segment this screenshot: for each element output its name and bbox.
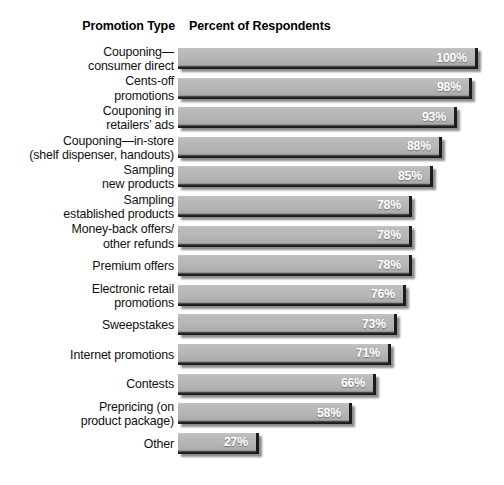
bar-track: 100% [178,48,504,69]
bar-value-label: 78% [377,228,412,244]
bar-value-label: 76% [371,287,406,303]
bar: 78% [178,226,412,247]
bar-track: 73% [178,314,504,335]
chart-row: Money-back offers/ other refunds78% [0,222,504,252]
bar: 73% [178,314,397,335]
category-label: Sampling established products [0,193,174,221]
bar: 71% [178,344,391,365]
bar: 98% [178,78,472,99]
chart-row: Other27% [0,429,504,459]
bar-value-label: 27% [224,435,259,451]
category-label: Other [0,436,174,450]
bar-track: 93% [178,107,504,128]
chart-row: Contests66% [0,370,504,400]
bar-value-label: 85% [398,169,433,185]
chart-row: Cents-off promotions98% [0,74,504,104]
chart-row: Sampling established products78% [0,192,504,222]
category-label: Couponing—in-store (shelf dispenser, han… [0,133,174,161]
chart-row: Sweepstakes73% [0,310,504,340]
category-label: Couponing in retailers’ ads [0,104,174,132]
bar-value-label: 78% [377,258,412,274]
chart-row: Prepricing (on product package)58% [0,399,504,429]
bar-track: 98% [178,78,504,99]
bar: 78% [178,196,412,217]
bar-track: 58% [178,403,504,424]
category-label: Electronic retail promotions [0,281,174,309]
chart-row: Couponing— consumer direct100% [0,44,504,74]
horizontal-bar-chart: Promotion Type Percent of Respondents Co… [0,0,504,485]
bar: 93% [178,107,457,128]
chart-row: Internet promotions71% [0,340,504,370]
bar-track: 76% [178,285,504,306]
bar-value-label: 93% [422,110,457,126]
bar-track: 78% [178,255,504,276]
bar-value-label: 66% [341,376,376,392]
bar: 27% [178,433,259,454]
bar-track: 66% [178,374,504,395]
bar-value-label: 98% [437,80,472,96]
chart-row: Electronic retail promotions76% [0,281,504,311]
bar-track: 27% [178,433,504,454]
bar: 76% [178,285,406,306]
bar-value-label: 73% [362,317,397,333]
bar: 88% [178,137,442,158]
bar-track: 71% [178,344,504,365]
category-label: Cents-off promotions [0,74,174,102]
category-label: Couponing— consumer direct [0,45,174,73]
bar-track: 85% [178,166,504,187]
bar: 58% [178,403,352,424]
column-header-percent-of-respondents: Percent of Respondents [189,19,331,33]
bar-value-label: 58% [317,406,352,422]
bar-value-label: 78% [377,198,412,214]
bar: 66% [178,374,376,395]
bar: 78% [178,255,412,276]
chart-row: Premium offers78% [0,251,504,281]
bar-track: 78% [178,226,504,247]
category-label: Money-back offers/ other refunds [0,222,174,250]
bar-track: 78% [178,196,504,217]
chart-row: Sampling new products85% [0,162,504,192]
category-label: Sampling new products [0,163,174,191]
column-header-promotion-type: Promotion Type [0,19,175,33]
category-label: Internet promotions [0,348,174,362]
bar-value-label: 100% [436,51,478,67]
chart-header: Promotion Type Percent of Respondents [0,19,504,39]
category-label: Contests [0,377,174,391]
chart-row: Couponing in retailers’ ads93% [0,103,504,133]
category-label: Sweepstakes [0,318,174,332]
bar: 100% [178,48,478,69]
category-label: Premium offers [0,259,174,273]
bar-rows: Couponing— consumer direct100%Cents-off … [0,44,504,458]
bar-value-label: 71% [356,346,391,362]
bar: 85% [178,166,433,187]
bar-value-label: 88% [407,139,442,155]
category-label: Prepricing (on product package) [0,400,174,428]
chart-row: Couponing—in-store (shelf dispenser, han… [0,133,504,163]
bar-track: 88% [178,137,504,158]
